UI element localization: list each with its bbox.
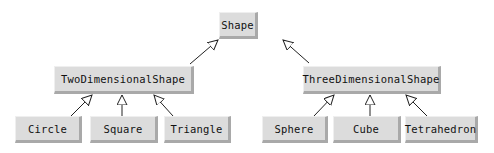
edge-threedimensional-to-shape	[283, 40, 309, 63]
node-two-dimensional-shape: TwoDimensionalShape	[54, 66, 194, 94]
node-three-dimensional-shape: ThreeDimensionalShape	[303, 66, 441, 94]
edge-twodimensional-to-shape	[190, 40, 218, 64]
class-hierarchy-diagram: Shape TwoDimensionalShape ThreeDimension…	[0, 0, 494, 153]
node-circle: Circle	[15, 116, 82, 143]
node-sphere: Sphere	[262, 116, 328, 143]
node-cube: Cube	[333, 116, 401, 143]
node-triangle: Triangle	[164, 116, 231, 143]
edge-circle-to-twodimensional	[71, 95, 92, 116]
node-tetrahedron: Tetrahedron	[405, 116, 478, 143]
node-shape: Shape	[219, 12, 258, 39]
edge-sphere-to-threedimensional	[314, 95, 334, 116]
node-square: Square	[90, 116, 158, 143]
edge-tetrahedron-to-threedimensional	[406, 95, 427, 116]
edge-triangle-to-twodimensional	[154, 95, 173, 116]
